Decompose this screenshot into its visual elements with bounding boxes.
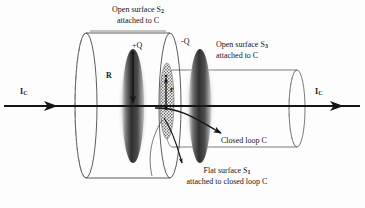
label-flat-surface-s1-subscript: 1 <box>248 169 251 175</box>
label-current-right-subscript: C <box>318 90 322 96</box>
label-open-surface-s3-line1: Open surface S <box>216 40 265 49</box>
label-radius-big: R <box>106 71 112 81</box>
label-open-surface-s3-subscript: 3 <box>265 43 268 49</box>
label-current-left: IC <box>20 87 27 98</box>
label-open-surface-s3: Open surface S3 attached to C <box>216 40 326 61</box>
label-charge-negative: -Q <box>181 37 189 47</box>
label-current-left-subscript: C <box>23 90 27 96</box>
label-open-surface-s2-line2: attached to C <box>117 16 159 25</box>
flat-surface-s1-disc <box>160 63 174 139</box>
label-flat-surface-s1-line1: Flat surface S <box>204 166 248 175</box>
label-charge-positive: +Q <box>132 41 142 51</box>
radius-R-origin-dot <box>132 52 135 55</box>
label-current-right: IC <box>315 87 322 98</box>
radius-r-origin-dot <box>165 75 168 78</box>
label-flat-surface-s1: Flat surface S1 attached to closed loop … <box>152 166 302 187</box>
label-flat-surface-s1-line2: attached to closed loop C <box>187 177 268 186</box>
cylinder-s3-right-cap-hidden-arc <box>289 70 297 147</box>
label-radius-small: r <box>170 85 174 95</box>
label-open-surface-s2: Open surface S2 attached to C <box>78 5 198 26</box>
label-open-surface-s3-line2: attached to C <box>216 51 258 60</box>
label-open-surface-s2-line1: Open surface S <box>112 5 161 14</box>
figure-canvas: Open surface S2 attached to C Open surfa… <box>0 0 365 208</box>
label-open-surface-s2-subscript: 2 <box>161 8 164 14</box>
flat-surface-s1-shape <box>160 63 174 139</box>
label-closed-loop: Closed loop C <box>221 136 267 146</box>
